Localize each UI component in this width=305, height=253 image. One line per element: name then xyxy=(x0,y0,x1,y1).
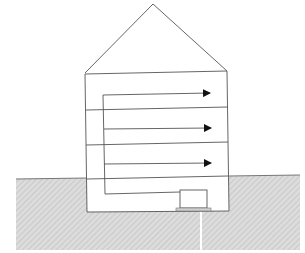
furnace-base xyxy=(176,208,211,211)
roof xyxy=(85,4,227,73)
ground-gap xyxy=(200,210,202,250)
house-interior xyxy=(86,71,229,212)
furnace-box xyxy=(180,190,207,208)
house-heating-diagram xyxy=(0,0,305,253)
